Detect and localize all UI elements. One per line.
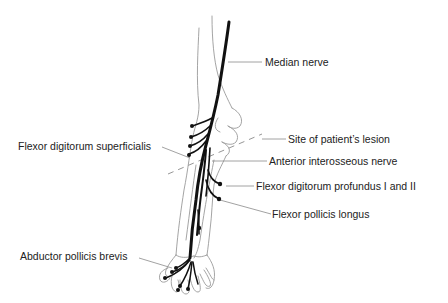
median-nerve xyxy=(190,22,229,258)
lesion-marker xyxy=(168,134,262,174)
label-flexor-digitorum-profundus: Flexor digitorum profundus I and II xyxy=(256,180,416,192)
label-anterior-interosseous-nerve: Anterior interosseous nerve xyxy=(269,155,397,167)
leader-fpl xyxy=(220,200,271,214)
label-site-of-lesion: Site of patient’s lesion xyxy=(288,133,390,145)
label-median-nerve: Median nerve xyxy=(265,56,329,68)
arm-outline xyxy=(159,16,241,294)
fdp-fpl-branches xyxy=(198,170,220,234)
hand-endpoints xyxy=(163,266,190,292)
label-abductor-pollicis-brevis: Abductor pollicis brevis xyxy=(20,250,127,262)
diagram-canvas: Median nerve Site of patient’s lesion Fl… xyxy=(0,0,448,303)
leader-apb xyxy=(139,258,172,268)
leader-lines xyxy=(139,62,286,268)
leader-fds xyxy=(162,147,190,158)
label-flexor-pollicis-longus: Flexor pollicis longus xyxy=(272,208,369,220)
label-flexor-digitorum-superficialis: Flexor digitorum superficialis xyxy=(18,140,151,152)
